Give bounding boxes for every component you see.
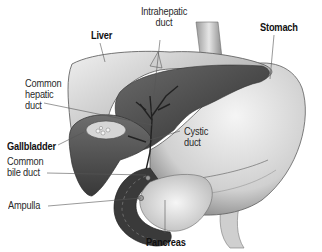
pancreas-shape [140,174,212,231]
label-intrahepatic-duct: Intrahepatic duct [138,6,189,28]
label-stomach: Stomach [260,22,298,33]
label-cystic-duct: Cystic duct [184,126,208,148]
label-common-bile-duct: Common bile duct [7,156,43,178]
anatomy-illustration [0,0,322,252]
label-gallbladder: Gallbladder [7,141,56,152]
label-common-hepatic-duct: Common hepatic duct [25,78,61,111]
label-ampulla: Ampulla [8,200,40,211]
label-pancreas: Pancreas [146,237,186,248]
label-liver: Liver [91,30,112,41]
